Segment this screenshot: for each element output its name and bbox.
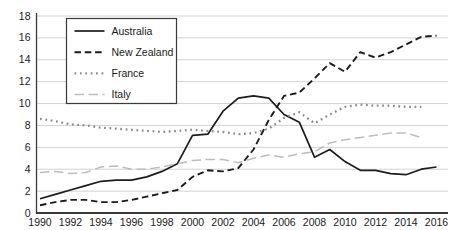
y-tick-label: 12 <box>19 75 31 87</box>
y-tick-label: 18 <box>19 10 31 22</box>
x-tick-label: 2016 <box>425 216 449 228</box>
x-tick-label: 1998 <box>150 216 174 228</box>
x-tick-label: 1994 <box>89 216 113 228</box>
x-tick-label: 2008 <box>303 216 327 228</box>
y-tick-label: 2 <box>25 185 31 197</box>
x-tick-label: 2012 <box>364 216 388 228</box>
y-tick-label: 8 <box>25 119 31 131</box>
x-tick-label: 2010 <box>333 216 357 228</box>
y-tick-label: 16 <box>19 31 31 43</box>
x-tick-label: 1992 <box>59 216 83 228</box>
series-line-france <box>40 105 421 135</box>
x-tick-label: 2000 <box>181 216 205 228</box>
x-tick-label: 2014 <box>394 216 418 228</box>
line-chart: 0246810121416181990199219941996199820002… <box>0 0 452 230</box>
y-tick-label: 10 <box>19 97 31 109</box>
chart-canvas: 0246810121416181990199219941996199820002… <box>0 0 452 230</box>
x-tick-label: 2004 <box>242 216 266 228</box>
y-tick-label: 6 <box>25 141 31 153</box>
y-tick-label: 4 <box>25 163 31 175</box>
series-line-italy <box>40 133 421 174</box>
x-tick-label: 2002 <box>211 216 235 228</box>
y-tick-label: 14 <box>19 53 31 65</box>
legend-label: Italy <box>112 88 132 100</box>
x-tick-label: 1996 <box>120 216 144 228</box>
x-tick-label: 1990 <box>28 216 52 228</box>
legend-label: New Zealand <box>112 46 174 58</box>
x-tick-label: 2006 <box>272 216 296 228</box>
legend-label: Australia <box>112 25 153 37</box>
legend-label: France <box>112 67 145 79</box>
